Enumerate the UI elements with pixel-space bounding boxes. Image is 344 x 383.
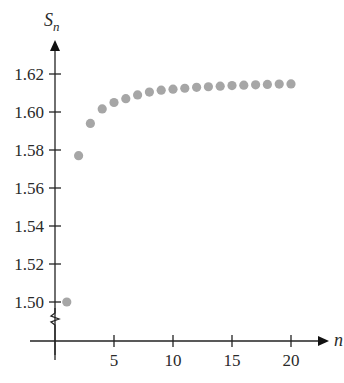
- data-point: [109, 98, 118, 107]
- x-tick-label: 15: [224, 351, 241, 370]
- y-axis-arrow-icon: [50, 40, 60, 51]
- y-tick-label: 1.58: [14, 141, 44, 160]
- x-tick-label: 5: [110, 351, 119, 370]
- data-points: [62, 79, 295, 306]
- y-axis: 1.501.521.541.561.581.601.62 Sn: [14, 10, 61, 360]
- data-point: [204, 82, 213, 91]
- data-point: [286, 79, 295, 88]
- data-point: [62, 297, 71, 306]
- data-point: [86, 119, 95, 128]
- data-point: [168, 85, 177, 94]
- data-point: [98, 104, 107, 113]
- data-point: [275, 79, 284, 88]
- data-point: [180, 84, 189, 93]
- y-tick-label: 1.62: [14, 65, 44, 84]
- chart: 1.501.521.541.561.581.601.62 Sn 5101520 …: [0, 0, 344, 383]
- data-point: [216, 82, 225, 91]
- data-point: [251, 80, 260, 89]
- data-point: [74, 151, 83, 160]
- y-axis-title: Sn: [44, 10, 60, 34]
- x-tick-label: 10: [165, 351, 182, 370]
- data-point: [239, 81, 248, 90]
- x-axis-arrow-icon: [318, 336, 329, 346]
- y-tick-label: 1.52: [14, 255, 44, 274]
- x-axis: 5101520 n: [30, 330, 343, 370]
- y-tick-label: 1.56: [14, 179, 44, 198]
- x-tick-label: 20: [283, 351, 300, 370]
- x-axis-title: n: [334, 330, 343, 350]
- data-point: [192, 83, 201, 92]
- data-point: [133, 90, 142, 99]
- y-tick-label: 1.60: [14, 103, 44, 122]
- data-point: [121, 94, 130, 103]
- data-point: [263, 80, 272, 89]
- y-tick-label: 1.54: [14, 217, 44, 236]
- data-point: [145, 87, 154, 96]
- data-point: [227, 81, 236, 90]
- data-point: [157, 86, 166, 95]
- y-tick-label: 1.50: [14, 293, 44, 312]
